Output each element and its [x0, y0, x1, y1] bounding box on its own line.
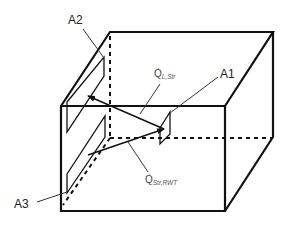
arrow-q-str-rwt — [88, 129, 164, 155]
leader-a1 — [170, 77, 218, 113]
leader-a2 — [83, 29, 104, 58]
q-subscript: Str,RWT — [153, 179, 177, 186]
label-q-str-rwt: ·QStr,RWT — [145, 175, 177, 187]
leader-lines — [37, 29, 218, 202]
hidden-edge-diagonal — [63, 138, 110, 205]
front-face — [61, 106, 225, 211]
box-diagram — [0, 0, 288, 228]
q-dot: · — [157, 65, 160, 73]
label-a3: A3 — [14, 198, 29, 210]
leader-a3 — [37, 192, 67, 202]
label-q-l-str: ·QL,Str — [154, 69, 176, 81]
label-a2: A2 — [68, 14, 83, 26]
q-dot: · — [148, 171, 151, 179]
leader-q-str-rwt — [128, 142, 148, 172]
leader-q-l-str — [140, 84, 160, 114]
right-face — [225, 32, 273, 211]
q-subscript: L,Str — [162, 73, 176, 80]
label-a1: A1 — [220, 68, 235, 80]
